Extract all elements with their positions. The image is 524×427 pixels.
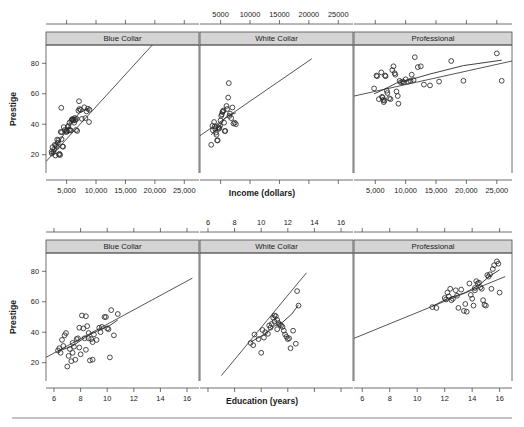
strip-label-row2-professional: Professional xyxy=(412,242,455,251)
data-point xyxy=(85,324,90,329)
x-tick-label: 6 xyxy=(52,394,56,403)
x-tick-label: 20,000 xyxy=(144,186,167,195)
panel-row2-white-collar: White Collar6810121416 xyxy=(200,218,353,392)
x-tick-label: 10 xyxy=(413,394,421,403)
x-axis-row1-professional: 5,00010,00015,00020,00025,000 xyxy=(354,180,512,195)
strip-label-row1-white-collar: White Collar xyxy=(255,34,298,43)
regression-line-row2-white-collar xyxy=(221,273,306,376)
data-point xyxy=(90,340,95,345)
data-point xyxy=(453,288,458,293)
data-point xyxy=(418,64,423,69)
x-tick-label: 14 xyxy=(156,394,164,403)
y-axis-row2: 20406080 xyxy=(31,267,46,367)
data-point xyxy=(437,79,442,84)
x-tick-label: 15,000 xyxy=(114,186,137,195)
panel-row-2: Blue Collar204060806810121416White Colla… xyxy=(31,218,512,403)
y-tick-label: 60 xyxy=(31,297,39,306)
data-point xyxy=(422,82,427,87)
y-axis-title-row2: Prestige xyxy=(8,300,18,334)
data-point xyxy=(295,289,300,294)
data-layer-row1-white-collar xyxy=(200,59,312,147)
x-tick-label: 10000 xyxy=(240,10,261,19)
data-point xyxy=(463,302,468,307)
x-tick-label: 6 xyxy=(360,394,364,403)
x-axis-row1-white-collar: 500010000150002000025000 xyxy=(200,10,353,24)
y-tick-label: 20 xyxy=(31,358,39,367)
data-point xyxy=(489,286,494,291)
y-axis-row1: 20406080 xyxy=(31,59,46,159)
data-point xyxy=(456,306,461,311)
data-point xyxy=(75,129,80,134)
x-tick-label: 5000 xyxy=(212,10,228,19)
x-tick-label: 16 xyxy=(496,394,504,403)
data-point xyxy=(428,83,433,88)
data-point xyxy=(59,105,64,110)
data-point xyxy=(481,298,486,303)
x-tick-label: 12 xyxy=(284,218,292,227)
data-point xyxy=(499,78,504,83)
x-tick-label: 20000 xyxy=(299,10,320,19)
data-point xyxy=(226,81,231,86)
data-point xyxy=(291,328,296,333)
regression-line-row2-blue-collar xyxy=(46,278,192,357)
data-point xyxy=(497,290,502,295)
data-point xyxy=(98,330,103,335)
x-axis-row2-blue-collar: 6810121416 xyxy=(46,388,199,403)
x-tick-label: 25000 xyxy=(328,10,349,19)
data-point xyxy=(396,101,401,106)
data-layer-row1-blue-collar xyxy=(46,43,154,161)
data-point xyxy=(226,95,231,100)
x-axis-mirror-row1-blue-collar xyxy=(46,20,199,24)
x-tick-label: 5,000 xyxy=(366,186,385,195)
data-point xyxy=(494,51,499,56)
y-tick-label: 80 xyxy=(31,267,39,276)
data-point xyxy=(77,345,82,350)
data-point xyxy=(448,286,453,291)
data-point xyxy=(70,350,75,355)
x-axis-mirror-row1-white-collar xyxy=(200,180,353,184)
strip-label-row2-white-collar: White Collar xyxy=(255,242,298,251)
strip-label-row1-blue-collar: Blue Collar xyxy=(103,34,142,43)
x-axis-row2-professional: 6810121416 xyxy=(354,388,512,403)
data-layer-row2-white-collar xyxy=(221,273,306,376)
x-tick-label: 12 xyxy=(130,394,138,403)
x-axis-row1-blue-collar: 5,00010,00015,00020,00025,000 xyxy=(46,180,199,195)
x-tick-label: 8 xyxy=(388,394,392,403)
x-axis-mirror-row2-professional xyxy=(354,228,512,232)
data-point xyxy=(87,120,92,125)
data-point xyxy=(209,142,214,147)
data-point xyxy=(394,89,399,94)
data-point xyxy=(464,309,469,314)
data-point xyxy=(259,350,264,355)
data-point xyxy=(412,55,417,60)
data-point xyxy=(262,335,267,340)
strip-label-row2-blue-collar: Blue Collar xyxy=(103,242,142,251)
plot-canvas: Blue Collar204060805,00010,00015,00020,0… xyxy=(0,0,524,427)
data-point xyxy=(78,352,83,357)
x-tick-label: 15000 xyxy=(269,10,290,19)
x-tick-label: 10,000 xyxy=(85,186,108,195)
conditioning-plot-figure: Blue Collar204060805,00010,00015,00020,0… xyxy=(0,0,524,427)
data-point xyxy=(293,341,298,346)
data-point xyxy=(395,94,400,99)
x-axis-mirror-row2-white-collar xyxy=(200,388,353,392)
data-point xyxy=(77,99,82,104)
lowess-curve-row1-professional xyxy=(374,60,502,94)
data-layer-row2-blue-collar xyxy=(46,278,192,369)
x-tick-label: 6 xyxy=(206,218,210,227)
y-tick-label: 40 xyxy=(31,120,39,129)
x-axis-mirror-row2-blue-collar xyxy=(46,228,199,232)
panel-row2-professional: Professional6810121416 xyxy=(354,228,512,403)
x-tick-label: 14 xyxy=(310,218,318,227)
data-point xyxy=(115,312,120,317)
data-point xyxy=(484,303,489,308)
data-point xyxy=(252,332,257,337)
x-tick-label: 10 xyxy=(103,394,111,403)
panel-row2-blue-collar: Blue Collar204060806810121416 xyxy=(31,228,199,403)
x-axis-title-row2: Education (years) xyxy=(226,396,298,406)
x-axis-mirror-row1-professional xyxy=(354,20,512,24)
x-tick-label: 8 xyxy=(79,394,83,403)
x-tick-label: 16 xyxy=(183,394,191,403)
data-point xyxy=(459,287,464,292)
x-tick-label: 5,000 xyxy=(57,186,76,195)
